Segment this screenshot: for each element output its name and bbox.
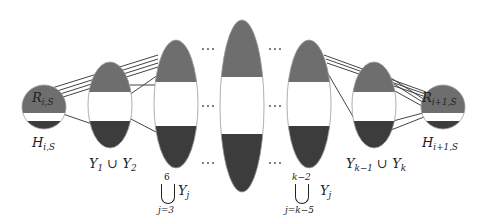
label-R-i1-S: Ri+1,S [422, 91, 457, 106]
label-Y1-union-Y2: Y1 ∪ Y2 [89, 157, 137, 172]
union1-term: Yj [178, 184, 189, 199]
union2-lower-limit: j=k−5 [285, 206, 314, 215]
big-union-symbol-1 [161, 184, 175, 204]
big-union-symbol-2 [295, 184, 309, 204]
label-Yk1-union-Yk: Yk−1 ∪ Yk [346, 157, 406, 172]
node-union-j3-6 [150, 38, 202, 172]
node-center [216, 18, 268, 196]
label-R-i-S: Ri,S [32, 91, 53, 106]
layered-graph-diagram [0, 0, 484, 222]
node-Y1-union-Y2 [86, 60, 136, 151]
union2-upper-limit: k−2 [292, 173, 311, 182]
label-H-i1-S: Hi+1,S [422, 136, 458, 151]
union1-lower-limit: j=3 [158, 206, 174, 215]
union1-upper-limit: 6 [164, 173, 170, 182]
union2-term: Yj [320, 184, 331, 199]
label-H-i-S: Hi,S [32, 136, 55, 151]
node-union-jk5-k2 [283, 38, 335, 172]
